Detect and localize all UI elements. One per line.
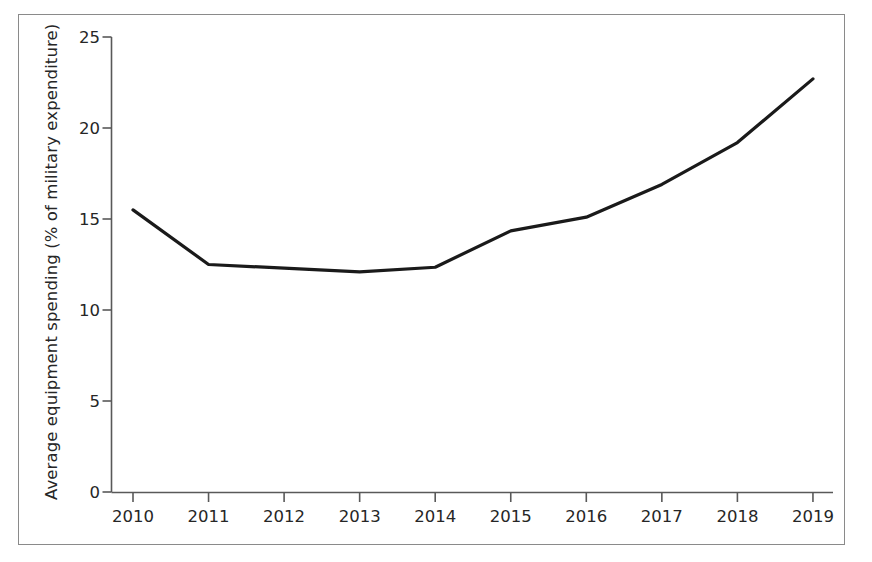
chart-canvas [0, 0, 872, 562]
x-axis-ticks [133, 492, 813, 502]
y-tick-label: 5 [55, 392, 100, 411]
y-tick-label: 15 [55, 210, 100, 229]
y-axis-ticks [103, 37, 112, 492]
y-tick-label: 0 [55, 483, 100, 502]
x-tick-label: 2012 [263, 507, 305, 526]
x-tick-label: 2016 [565, 507, 607, 526]
x-tick-label: 2010 [112, 507, 154, 526]
y-tick-label: 20 [55, 119, 100, 138]
figure-container: Average equipment spending (% of militar… [0, 0, 872, 562]
x-tick-label: 2013 [339, 507, 381, 526]
y-tick-label: 10 [55, 301, 100, 320]
x-tick-label: 2015 [490, 507, 532, 526]
x-tick-label: 2011 [188, 507, 230, 526]
y-tick-label: 25 [55, 28, 100, 47]
x-tick-label: 2014 [414, 507, 456, 526]
data-line-series-1 [133, 79, 813, 272]
x-tick-label: 2019 [792, 507, 834, 526]
x-tick-label: 2018 [716, 507, 758, 526]
x-tick-label: 2017 [641, 507, 683, 526]
